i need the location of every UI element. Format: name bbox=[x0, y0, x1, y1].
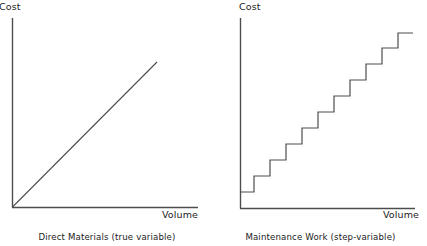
step-variable-cost-line bbox=[240, 33, 413, 192]
y-axis-label-cost: Cost bbox=[0, 1, 21, 12]
chart-panel-maintenance-work: Cost Volume Maintenance Work (step-varia… bbox=[214, 0, 427, 246]
cost-behavior-figure: Cost Volume Direct Materials (true varia… bbox=[0, 0, 427, 246]
chart-caption-maintenance-work: Maintenance Work (step-variable) bbox=[214, 232, 427, 243]
y-axis-label-cost: Cost bbox=[239, 1, 261, 12]
x-axis-label-volume: Volume bbox=[162, 209, 198, 220]
x-axis-label-volume: Volume bbox=[383, 209, 419, 220]
chart-panel-direct-materials: Cost Volume Direct Materials (true varia… bbox=[0, 0, 214, 246]
variable-cost-line bbox=[13, 62, 158, 207]
chart-caption-direct-materials: Direct Materials (true variable) bbox=[0, 232, 214, 243]
